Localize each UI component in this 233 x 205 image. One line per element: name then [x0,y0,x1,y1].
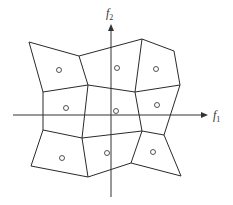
y-axis-label: f2 [106,6,113,22]
edge [82,85,88,138]
edge [131,131,142,163]
centroid-marker [105,151,110,156]
centroid-marker [114,109,119,114]
edge [79,56,88,85]
centroid-marker [154,67,159,72]
outer-boundary [29,39,181,177]
centroid-marker [115,66,120,71]
edge [82,138,88,177]
centroid-marker [155,103,160,108]
edge [142,131,164,135]
centroid-marker [64,106,69,111]
edge [82,131,142,138]
centroid-marker [60,156,65,161]
y-axis-arrow-icon [108,24,114,31]
edge [135,39,142,92]
cell-edges [29,39,181,177]
x-axis-label: f1 [213,108,220,124]
x-axis-arrow-icon [201,112,208,118]
edge [43,85,88,92]
voronoi-diagram: f1 f2 [0,0,233,205]
centroid-marker [151,150,156,155]
edge [43,130,82,138]
edge [135,92,142,131]
centroid-marker [57,68,62,73]
edge [135,85,180,92]
cell-centroids [57,66,160,161]
